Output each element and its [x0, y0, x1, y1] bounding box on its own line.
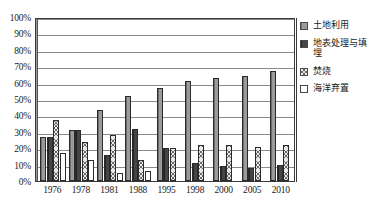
bar [125, 96, 131, 181]
y-axis-tick-label: 90% [14, 30, 31, 39]
bar-chart-figure: 0%10%20%30%40%50%60%70%80%90%100% 197619… [0, 0, 391, 218]
bar [75, 130, 81, 181]
legend-label: 地表处理与填埋 [313, 38, 375, 59]
x-axis-tick-label: 1995 [152, 184, 181, 198]
bar [220, 166, 226, 181]
legend-label: 海洋弃置 [313, 83, 349, 94]
x-axis-tick-label: 2010 [267, 184, 296, 198]
bar [248, 168, 254, 181]
bar [53, 120, 59, 181]
x-axis-tick-label: 1998 [181, 184, 210, 198]
y-axis-tick-label: 20% [14, 145, 31, 154]
y-axis-tick-label: 70% [14, 63, 31, 72]
legend-divider [296, 18, 297, 182]
y-axis-tick-label: 40% [14, 112, 31, 121]
bar [157, 88, 163, 181]
chart-legend: 土地利用地表处理与填埋焚烧海洋弃置 [300, 20, 388, 101]
legend-label: 土地利用 [313, 20, 349, 31]
bar-group [39, 19, 67, 181]
legend-item: 海洋弃置 [300, 83, 388, 94]
bar [117, 173, 123, 181]
x-axis-tick-label: 1988 [124, 184, 153, 198]
x-axis: 197619781981198819951998200020052010 [38, 184, 295, 198]
bar-group [96, 19, 124, 181]
plot-area [35, 18, 295, 182]
bar [198, 145, 204, 181]
bar [60, 153, 66, 181]
bar-group [67, 19, 95, 181]
legend-swatch-icon [300, 40, 308, 48]
bar [242, 76, 248, 181]
bar [170, 148, 176, 181]
x-axis-tick-label: 2000 [209, 184, 238, 198]
y-axis-line [36, 19, 38, 181]
legend-label: 焚烧 [313, 66, 331, 77]
x-axis-tick-label: 2005 [238, 184, 267, 198]
bar-groups [39, 19, 294, 181]
bar-group [181, 19, 209, 181]
bar [283, 145, 289, 181]
y-axis-tick-label: 60% [14, 79, 31, 88]
bar [88, 160, 94, 181]
y-axis-tick-label: 10% [14, 161, 31, 170]
bar [138, 160, 144, 181]
legend-item: 土地利用 [300, 20, 388, 31]
bar [132, 129, 138, 181]
bar [69, 130, 75, 181]
y-axis-tick-label: 100% [10, 14, 31, 23]
bar [277, 165, 283, 181]
bar [40, 137, 46, 181]
x-axis-tick-label: 1978 [67, 184, 96, 198]
bar [192, 163, 198, 181]
legend-item: 地表处理与填埋 [300, 38, 388, 59]
bar [255, 147, 261, 181]
bar [270, 71, 276, 181]
y-axis: 0%10%20%30%40%50%60%70%80%90%100% [0, 18, 33, 182]
legend-item: 焚烧 [300, 66, 388, 77]
legend-swatch-icon [300, 22, 308, 30]
bar [185, 81, 191, 181]
bar [104, 155, 110, 181]
bar-group [124, 19, 152, 181]
y-axis-tick-label: 0% [19, 178, 31, 187]
y-axis-tick-label: 30% [14, 128, 31, 137]
bar [97, 110, 103, 181]
bar-group [209, 19, 237, 181]
bar [145, 171, 151, 181]
bar-group [266, 19, 294, 181]
x-axis-tick-label: 1976 [38, 184, 67, 198]
y-axis-tick-label: 50% [14, 96, 31, 105]
legend-swatch-icon [300, 85, 308, 93]
bar-group [237, 19, 265, 181]
legend-swatch-icon [300, 68, 308, 76]
bar [226, 145, 232, 181]
bar [213, 78, 219, 181]
bar [47, 137, 53, 181]
y-axis-tick-label: 80% [14, 46, 31, 55]
bar [82, 142, 88, 181]
bar [110, 135, 116, 181]
x-axis-tick-label: 1981 [95, 184, 124, 198]
bar-group [152, 19, 180, 181]
bar [163, 148, 169, 181]
